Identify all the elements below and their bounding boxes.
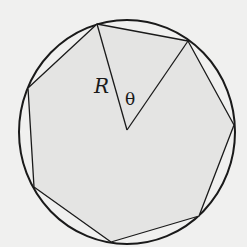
- inscribed-polygon-diagram: R θ: [0, 0, 247, 247]
- angle-label: θ: [125, 89, 135, 109]
- radius-label: R: [93, 74, 109, 98]
- inscribed-polygon: [28, 24, 234, 242]
